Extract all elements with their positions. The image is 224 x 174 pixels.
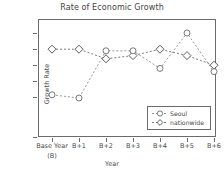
chart-container: Rate of Economic Growth Growth Rate 3.5 … bbox=[0, 0, 224, 174]
chart-legend: Seoul nationwide bbox=[147, 106, 211, 130]
y-tick-mark bbox=[33, 65, 37, 66]
chart-title: Rate of Economic Growth bbox=[0, 3, 224, 12]
y-tick-mark bbox=[33, 81, 37, 82]
x-tick-label-sub: (B) bbox=[30, 152, 74, 160]
legend-label-seoul: Seoul bbox=[169, 110, 187, 117]
y-tick-mark bbox=[33, 97, 37, 98]
series-line-seoul bbox=[52, 33, 214, 98]
legend-item-nationwide: nationwide bbox=[151, 118, 207, 127]
legend-marker-diamond-icon bbox=[151, 118, 169, 127]
y-tick-mark bbox=[33, 49, 37, 50]
y-tick-mark bbox=[33, 33, 37, 34]
legend-marker-circle-icon bbox=[151, 109, 169, 118]
plot-area: Growth Rate 3.5 3.0 2.5 2.0 1.5 0.0 Base… bbox=[38, 19, 216, 137]
x-axis-label: Year bbox=[0, 160, 224, 168]
legend-label-nationwide: nationwide bbox=[169, 119, 204, 126]
series-markers-seoul bbox=[49, 30, 217, 101]
legend-item-seoul: Seoul bbox=[151, 109, 207, 118]
y-tick-mark bbox=[33, 137, 37, 138]
x-tick-label: B+6 bbox=[192, 142, 224, 150]
